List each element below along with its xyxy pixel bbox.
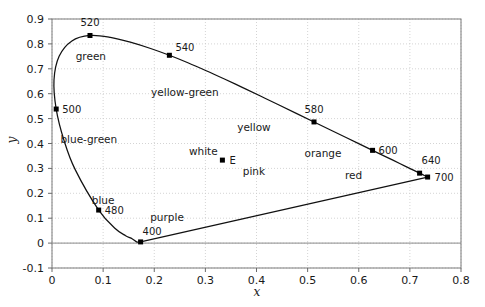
point-label-600: 600 <box>379 145 398 156</box>
data-point-540: 540 <box>167 42 195 58</box>
y-tick-label: 0 <box>37 237 44 250</box>
x-tick-label: 0.8 <box>452 274 470 287</box>
data-point-400: 400 <box>138 226 162 245</box>
marker-square-500 <box>54 107 59 112</box>
data-point-480: 480 <box>96 205 124 216</box>
y-tick-label: 0.7 <box>27 63 45 76</box>
y-axis-title: y <box>5 136 19 144</box>
data-point-600: 600 <box>370 145 398 156</box>
axis-ticks <box>48 19 461 272</box>
y-tick-label: 0.8 <box>27 38 45 51</box>
y-tick-label: 0.9 <box>27 13 45 26</box>
point-label-480: 480 <box>105 205 124 216</box>
region-label-purple: purple <box>150 211 184 223</box>
y-tick-label: 0.5 <box>27 113 45 126</box>
marker-square-E <box>220 158 225 163</box>
region-label-blue: blue <box>92 194 115 206</box>
region-labels: greenyellow-greenyelloworangeblue-greenw… <box>60 50 362 223</box>
point-label-640: 640 <box>422 155 441 166</box>
marker-square-600 <box>370 148 375 153</box>
marker-square-580 <box>312 119 317 124</box>
y-tick-label: 0.3 <box>27 162 45 175</box>
x-tick-label: 0.2 <box>146 274 164 287</box>
x-tick-label: 0.1 <box>94 274 112 287</box>
data-point-E: E <box>220 155 236 166</box>
y-tick-label: 0.2 <box>27 187 45 200</box>
point-label-580: 580 <box>304 104 323 115</box>
x-tick-label: 0.7 <box>401 274 419 287</box>
region-label-orange: orange <box>304 147 341 159</box>
y-tick-label: 0.6 <box>27 88 45 101</box>
region-label-yellow: yellow <box>237 121 271 133</box>
point-label-520: 520 <box>80 17 99 28</box>
y-tick-label: 0.4 <box>27 138 45 151</box>
region-label-white: white <box>189 145 218 157</box>
x-tick-label: 0.6 <box>350 274 368 287</box>
data-point-500: 500 <box>54 104 82 115</box>
marker-square-700 <box>425 175 430 180</box>
region-label-pink: pink <box>243 165 266 177</box>
region-label-yellow-green: yellow-green <box>151 86 219 98</box>
y-tick-label: -0.1 <box>23 262 44 275</box>
marker-square-640 <box>417 171 422 176</box>
purple-line-path <box>141 177 428 242</box>
purple-line <box>141 177 428 242</box>
marker-square-540 <box>167 53 172 58</box>
point-label-540: 540 <box>175 42 194 53</box>
region-label-green: green <box>76 50 106 62</box>
x-tick-label: 0 <box>49 274 56 287</box>
chart-canvas: 00.10.20.30.40.50.60.70.8-0.100.10.20.30… <box>0 0 485 307</box>
data-point-700: 700 <box>425 172 454 183</box>
point-label-500: 500 <box>62 104 81 115</box>
x-tick-label: 0.5 <box>299 274 317 287</box>
x-axis-title: x <box>254 285 261 299</box>
y-tick-label: 0.1 <box>27 212 45 225</box>
marker-square-480 <box>96 208 101 213</box>
marker-square-520 <box>87 33 92 38</box>
region-label-blue-green: blue-green <box>60 133 117 145</box>
point-label-E: E <box>229 155 235 166</box>
x-tick-label: 0.3 <box>197 274 215 287</box>
marker-square-400 <box>138 239 143 244</box>
point-label-400: 400 <box>143 226 162 237</box>
chromaticity-diagram: 00.10.20.30.40.50.60.70.8-0.100.10.20.30… <box>0 0 485 307</box>
point-label-700: 700 <box>435 172 454 183</box>
region-label-red: red <box>345 169 362 181</box>
